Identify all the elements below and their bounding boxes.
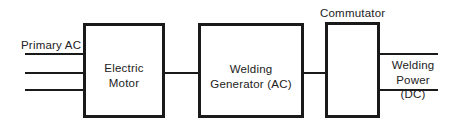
welding-generator-label-line1: Welding <box>201 62 301 76</box>
electric-motor-label-line2: Motor <box>86 76 162 90</box>
input-line-3 <box>25 89 85 91</box>
welding-power-dc-label-line1: Welding <box>385 58 441 72</box>
input-line-1 <box>25 53 85 55</box>
input-line-2 <box>25 72 85 74</box>
welding-power-dc-label-line2: Power (DC) <box>382 73 444 101</box>
generator-commutator-connector <box>304 72 326 74</box>
electric-motor-block: Electric Motor <box>83 23 165 118</box>
electric-motor-label-line1: Electric <box>86 61 162 75</box>
welding-generator-label-line2: Generator (AC) <box>201 77 301 91</box>
commutator-block <box>325 22 380 118</box>
motor-generator-connector <box>165 72 199 74</box>
commutator-label: Commutator <box>320 6 385 20</box>
primary-ac-label: Primary AC <box>21 38 81 52</box>
welding-generator-block: Welding Generator (AC) <box>198 23 304 118</box>
output-line-1 <box>380 53 438 55</box>
